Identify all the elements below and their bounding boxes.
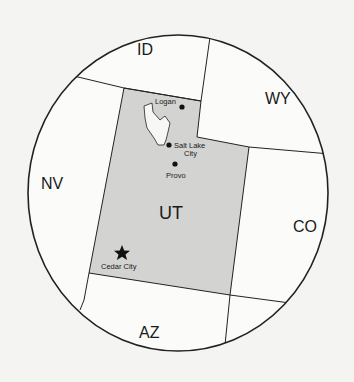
state-label-id: ID	[137, 41, 153, 58]
city-label-provo: Provo	[166, 171, 186, 180]
state-label-az: AZ	[139, 324, 160, 341]
state-label-co: CO	[293, 218, 317, 235]
state-label-ut: UT	[159, 203, 183, 223]
city-dot-icon	[172, 161, 177, 166]
city-label-city: City	[184, 149, 197, 158]
city-dot-icon	[179, 104, 184, 109]
city-label-cedar-city: Cedar City	[101, 262, 137, 271]
utah-locator-map: ID WY NV UT CO AZ Logan Salt Lake City P…	[0, 0, 354, 382]
city-label-logan: Logan	[155, 97, 176, 106]
city-dot-icon	[166, 142, 171, 147]
state-label-wy: WY	[265, 90, 291, 107]
state-label-nv: NV	[41, 175, 64, 192]
